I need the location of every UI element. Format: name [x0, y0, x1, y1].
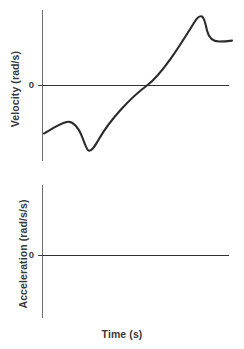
acceleration-zero-tick-label: 0 [22, 250, 34, 260]
velocity-plot-svg [0, 0, 244, 175]
velocity-zero-tick-label: 0 [22, 80, 34, 90]
figure-container: Velocity (rad/s) 0 Acceleration (rad/s/s… [0, 0, 244, 349]
velocity-chart-panel: Velocity (rad/s) 0 [0, 0, 244, 175]
x-axis-label: Time (s) [0, 328, 244, 340]
velocity-data-curve [44, 16, 232, 151]
acceleration-plot-svg [0, 175, 244, 325]
acceleration-chart-panel [0, 175, 244, 325]
velocity-y-axis-label: Velocity (rad/s) [8, 44, 22, 134]
